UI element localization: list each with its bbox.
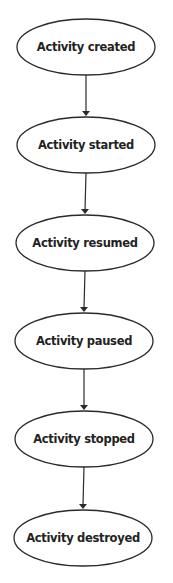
arrow-line — [83, 467, 84, 505]
node-paused: Activity paused — [15, 313, 153, 369]
node-destroyed: Activity destroyed — [14, 510, 152, 566]
arrow-line — [84, 271, 85, 308]
node-label: Activity stopped — [33, 432, 135, 446]
arrow-line — [85, 173, 86, 210]
node-created: Activity created — [17, 19, 155, 75]
arrowhead-icon — [82, 111, 90, 116]
node-resumed: Activity resumed — [16, 215, 154, 271]
arrowhead-icon — [80, 307, 88, 312]
node-label: Activity started — [38, 138, 134, 152]
node-label: Activity resumed — [32, 236, 137, 250]
arrow-created-to-started — [82, 75, 90, 116]
node-stopped: Activity stopped — [15, 411, 153, 467]
activity-lifecycle-diagram: Activity createdActivity startedActivity… — [0, 0, 173, 583]
arrow-resumed-to-paused — [80, 271, 88, 312]
arrow-started-to-resumed — [81, 173, 89, 214]
arrowhead-icon — [81, 209, 89, 214]
node-label: Activity created — [37, 40, 135, 54]
node-started: Activity started — [17, 117, 155, 173]
node-label: Activity destroyed — [26, 531, 140, 545]
arrowhead-icon — [79, 504, 87, 509]
node-label: Activity paused — [36, 334, 132, 348]
arrowhead-icon — [80, 405, 88, 410]
arrow-stopped-to-destroyed — [79, 467, 87, 509]
arrow-paused-to-stopped — [80, 369, 88, 410]
